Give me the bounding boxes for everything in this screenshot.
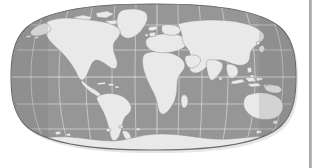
world-map-svg [0,0,305,155]
world-map-figure [0,0,305,155]
vertical-scroll-divider[interactable] [309,0,312,168]
land-sri-lanka [219,77,222,80]
figure-canvas [0,0,319,168]
land-scandinavia [162,25,181,36]
land-madagascar [181,95,188,108]
